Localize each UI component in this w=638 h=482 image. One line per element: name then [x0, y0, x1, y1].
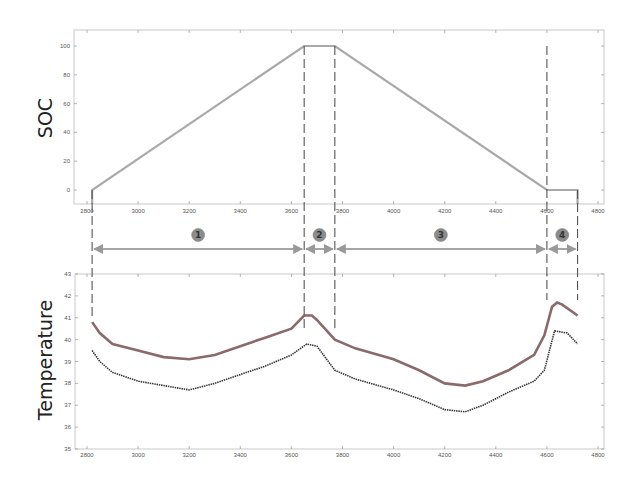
- phase-1-label: 1: [195, 230, 201, 240]
- x-tick-label: 3600: [285, 452, 299, 458]
- x-tick-label: 4000: [387, 208, 401, 214]
- x-tick-label: 4600: [540, 452, 554, 458]
- x-tick-label: 3000: [131, 208, 145, 214]
- y-tick-label: 39: [64, 359, 71, 365]
- soc-plot: 2800300032003400360038004000420044004600…: [34, 30, 605, 214]
- y-tick-label: 38: [64, 380, 71, 386]
- x-tick-label: 3000: [131, 452, 145, 458]
- x-tick-label: 4800: [591, 208, 605, 214]
- phase-2-label: 2: [316, 230, 322, 240]
- x-tick-label: 4200: [438, 452, 452, 458]
- y-tick-label: 100: [60, 43, 71, 49]
- y-tick-label: 35: [64, 446, 71, 452]
- x-tick-label: 3400: [234, 452, 248, 458]
- x-tick-label: 4000: [387, 452, 401, 458]
- figure: 2800300032003400360038004000420044004600…: [0, 0, 638, 482]
- soc-plot-frame: [74, 30, 604, 204]
- y-tick-label: 36: [64, 424, 71, 430]
- y-tick-label: 41: [64, 315, 71, 321]
- y-tick-label: 43: [64, 271, 71, 277]
- x-tick-label: 4400: [489, 452, 503, 458]
- y-tick-label: 0: [67, 187, 71, 193]
- x-tick-label: 4800: [591, 452, 605, 458]
- y-tick-label: 80: [63, 72, 70, 78]
- x-tick-label: 3200: [183, 208, 197, 214]
- y-tick-label: 20: [63, 158, 70, 164]
- y-tick-label: 42: [64, 293, 71, 299]
- x-tick-label: 2800: [80, 452, 94, 458]
- temperature-plot: 2800300032003400360038004000420044004600…: [34, 271, 605, 458]
- y-tick-label: 40: [63, 129, 70, 135]
- soc-axis-label: SOC: [34, 98, 56, 138]
- temperature-axis-label: Temperature: [34, 300, 56, 421]
- x-tick-label: 3600: [285, 208, 299, 214]
- x-tick-label: 3800: [336, 208, 350, 214]
- y-tick-label: 40: [64, 337, 71, 343]
- x-tick-label: 3400: [234, 208, 248, 214]
- y-tick-label: 37: [64, 402, 71, 408]
- x-tick-label: 4400: [489, 208, 503, 214]
- x-tick-label: 4200: [438, 208, 452, 214]
- x-tick-label: 3200: [183, 452, 197, 458]
- phase-3-label: 3: [438, 230, 444, 240]
- x-tick-label: 3800: [336, 452, 350, 458]
- phase-4-label: 4: [559, 230, 565, 240]
- y-tick-label: 60: [63, 101, 70, 107]
